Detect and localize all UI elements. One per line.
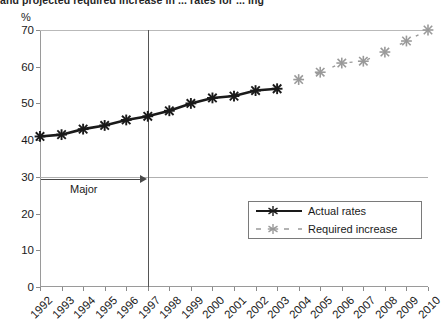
data-point-marker	[401, 36, 412, 47]
x-tick-mark	[148, 287, 149, 291]
x-tick-mark	[428, 287, 429, 291]
x-tick-label-2010: 2010	[416, 294, 443, 321]
x-tick-mark	[62, 287, 63, 291]
x-tick-mark	[169, 287, 170, 291]
x-tick-label-2007: 2007	[351, 294, 378, 321]
x-tick-label-2005: 2005	[308, 294, 335, 321]
data-point-marker	[293, 74, 304, 85]
x-tick-mark	[126, 287, 127, 291]
x-tick-label-2008: 2008	[373, 294, 400, 321]
legend-label-actual-rates: Actual rates	[308, 205, 366, 217]
data-point-marker	[336, 58, 347, 69]
x-tick-mark	[234, 287, 235, 291]
data-point-marker	[142, 111, 153, 122]
y-tick-label-50: 50	[21, 97, 34, 109]
y-tick-label-10: 10	[21, 244, 34, 256]
data-point-marker	[78, 124, 89, 135]
x-tick-label-2009: 2009	[394, 294, 421, 321]
x-tick-mark	[299, 287, 300, 291]
data-point-marker	[164, 105, 175, 116]
x-tick-mark	[256, 287, 257, 291]
data-point-marker	[99, 120, 110, 131]
annotation-arrow-head	[140, 175, 147, 183]
x-tick-label-2002: 2002	[243, 294, 270, 321]
data-point-marker	[185, 98, 196, 109]
data-point-marker	[229, 91, 240, 102]
x-tick-mark	[363, 287, 364, 291]
data-point-marker	[423, 25, 434, 36]
x-tick-mark	[385, 287, 386, 291]
x-tick-label-1994: 1994	[71, 294, 98, 321]
legend-label-required-increase: Required increase	[308, 223, 397, 235]
x-tick-mark	[277, 287, 278, 291]
x-tick-mark	[191, 287, 192, 291]
x-tick-label-1997: 1997	[136, 294, 163, 321]
y-tick-label-70: 70	[21, 24, 34, 36]
x-tick-mark	[40, 287, 41, 291]
data-point-marker	[272, 83, 283, 94]
x-tick-label-1999: 1999	[179, 294, 206, 321]
x-tick-label-2000: 2000	[200, 294, 227, 321]
x-tick-label-2006: 2006	[330, 294, 357, 321]
x-tick-label-2004: 2004	[287, 294, 314, 321]
x-tick-mark	[105, 287, 106, 291]
data-point-marker	[56, 129, 67, 140]
y-tick-label-20: 20	[21, 208, 34, 220]
x-tick-label-2003: 2003	[265, 294, 292, 321]
y-tick-label-60: 60	[21, 61, 34, 73]
data-point-marker	[207, 93, 218, 104]
x-tick-mark	[406, 287, 407, 291]
data-point-marker	[35, 131, 46, 142]
legend-swatch-actual-rates	[256, 204, 302, 218]
chart-title: and projected required increase in ... r…	[0, 0, 438, 8]
annotation-label: Major	[70, 183, 98, 195]
legend-item-required-increase: Required increase	[249, 220, 421, 238]
x-tick-mark	[342, 287, 343, 291]
legend: Actual rates Required increase	[248, 201, 422, 239]
x-tick-label-1992: 1992	[28, 294, 55, 321]
series-line-actual-rates	[40, 89, 277, 137]
x-tick-mark	[320, 287, 321, 291]
x-tick-label-1998: 1998	[157, 294, 184, 321]
x-tick-mark	[83, 287, 84, 291]
x-tick-label-2001: 2001	[222, 294, 249, 321]
y-axis-unit-label: %	[21, 11, 31, 23]
data-point-marker	[379, 47, 390, 58]
data-point-marker	[250, 85, 261, 96]
data-point-marker	[121, 115, 132, 126]
data-point-marker	[315, 67, 326, 78]
legend-swatch-required-increase	[256, 222, 302, 236]
series-layer	[40, 30, 428, 287]
y-tick-label-40: 40	[21, 134, 34, 146]
data-point-marker	[358, 56, 369, 67]
y-tick-label-0: 0	[28, 281, 34, 293]
x-tick-label-1995: 1995	[93, 294, 120, 321]
y-tick-label-30: 30	[21, 171, 34, 183]
legend-item-actual-rates: Actual rates	[249, 202, 421, 220]
plot-area: 010203040506070 199219931994199519961997…	[40, 30, 428, 287]
annotation-arrow-line	[41, 179, 141, 180]
x-tick-mark	[212, 287, 213, 291]
x-tick-label-1993: 1993	[49, 294, 76, 321]
x-tick-label-1996: 1996	[114, 294, 141, 321]
